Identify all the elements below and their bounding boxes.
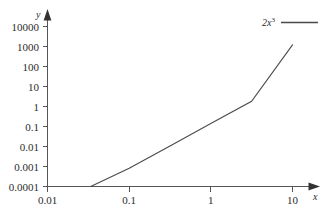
y-axis-title: y xyxy=(36,10,40,20)
x-tick-label-1: 1 xyxy=(208,195,214,206)
y-tick-marks xyxy=(43,27,48,187)
y-tick-label-100: 100 xyxy=(0,61,39,72)
x-axis-title: x xyxy=(313,192,317,202)
y-tick-label-0.0001: 0.0001 xyxy=(0,181,39,192)
y-tick-label-0.1: 0.1 xyxy=(0,121,39,132)
y-tick-label-10000: 10000 xyxy=(0,21,39,32)
x-tick-label-10: 10 xyxy=(287,195,298,206)
x-tick-marks xyxy=(48,187,293,192)
x-tick-label-0.01: 0.01 xyxy=(38,195,57,206)
y-tick-label-10: 10 xyxy=(0,81,39,92)
x-tick-label-0.1: 0.1 xyxy=(122,195,136,206)
series-line-2x3 xyxy=(91,45,293,187)
legend-label-exponent: 3 xyxy=(272,15,276,23)
y-axis-arrow-icon xyxy=(44,9,52,21)
y-tick-label-0.001: 0.001 xyxy=(0,161,39,172)
chart-figure: 10000 1000 100 10 1 0.1 0.01 0.001 0.000… xyxy=(0,0,326,218)
x-axis-arrow-icon xyxy=(309,183,321,191)
y-tick-label-1000: 1000 xyxy=(0,41,39,52)
y-tick-label-0.01: 0.01 xyxy=(0,141,39,152)
legend-label-2x3: 2x3 xyxy=(262,18,275,28)
y-tick-label-1: 1 xyxy=(0,101,39,112)
plot-canvas xyxy=(0,0,326,218)
